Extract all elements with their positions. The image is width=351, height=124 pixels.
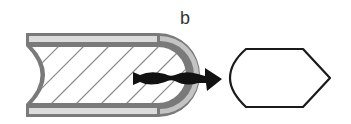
top-strip (29, 36, 157, 42)
bottom-strip (29, 108, 157, 114)
diagram-figure: b (0, 0, 351, 124)
lens-shape (230, 49, 330, 107)
diagram-canvas (0, 0, 351, 124)
